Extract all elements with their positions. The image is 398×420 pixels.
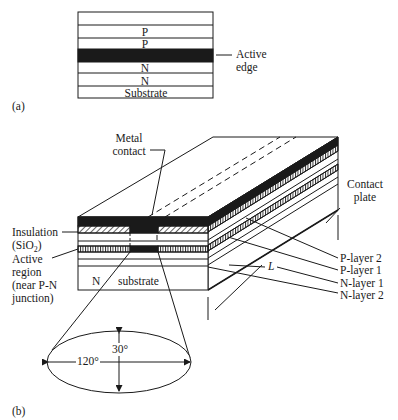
vertical-angle-label: 30° bbox=[112, 343, 128, 356]
n-layer-2-label: N-layer 2 bbox=[340, 289, 384, 302]
contact-plate-label: Contact plate bbox=[342, 178, 388, 204]
substrate-n-label: N bbox=[92, 275, 100, 288]
diagram-canvas bbox=[0, 0, 398, 420]
figure-a-stack bbox=[78, 12, 232, 98]
insulation-label: Insulation (SiO2) bbox=[12, 226, 58, 256]
layer-label-substrate: Substrate bbox=[110, 87, 182, 100]
p-layer-1-label: P-layer 1 bbox=[340, 264, 382, 277]
active-region-label: Active region (near P-N junction) bbox=[12, 253, 57, 305]
panel-label-b: (b) bbox=[12, 405, 25, 418]
horizontal-angle-label: 120° bbox=[76, 355, 100, 368]
layer-label-p-lower: P bbox=[138, 38, 152, 51]
panel-label-a: (a) bbox=[12, 100, 25, 113]
layer-label-n-upper: N bbox=[138, 62, 152, 75]
active-edge-label: Active edge bbox=[236, 48, 267, 74]
metal-contact-label: Metal contact bbox=[106, 132, 152, 158]
substrate-label: substrate bbox=[118, 275, 159, 288]
length-label: L bbox=[268, 260, 274, 273]
